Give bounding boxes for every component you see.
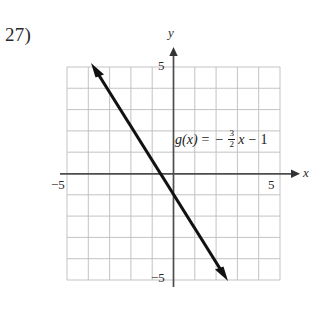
equation-function-name: g(x) — [175, 132, 198, 148]
equation-equals-sign: = — [200, 132, 212, 148]
x-axis-label: x — [303, 165, 309, 181]
x-axis-arrowhead — [291, 170, 300, 178]
plot-line-arrowhead-upper — [91, 63, 104, 78]
plot-line-arrowhead-lower — [215, 267, 228, 282]
y-axis-arrowhead — [169, 47, 177, 56]
equation-fraction-numerator: 3 — [229, 129, 236, 138]
tick-label-x-negative-5: −5 — [51, 177, 65, 193]
plot-line-g — [91, 63, 228, 281]
equation-fraction: 3 2 — [228, 129, 235, 149]
equation-fraction-denominator: 2 — [229, 140, 236, 149]
equation-variable: x — [238, 132, 244, 148]
equation-constant: 1 — [260, 132, 267, 148]
tick-label-y-negative-5: −5 — [151, 270, 165, 286]
equation-leading-sign: − — [213, 132, 225, 148]
y-axis-label: y — [168, 25, 174, 41]
worksheet-page: 27) — [0, 0, 320, 320]
tick-label-x-positive-5: 5 — [268, 177, 275, 193]
tick-label-y-positive-5: 5 — [158, 58, 165, 74]
coordinate-graph: −5 5 5 −5 x y g(x) = − 3 2 x − 1 — [0, 0, 320, 320]
axes — [60, 56, 291, 287]
equation-trailing-sign: − — [247, 132, 259, 148]
function-equation-annotation: g(x) = − 3 2 x − 1 — [175, 130, 267, 150]
